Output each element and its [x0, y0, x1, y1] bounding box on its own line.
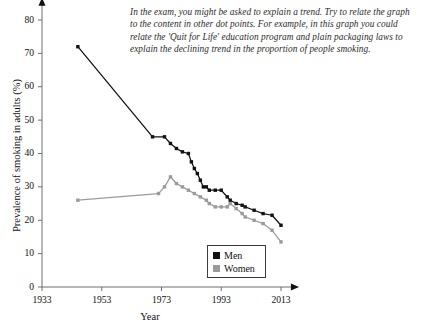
x-tick-label: 1973	[140, 294, 184, 305]
y-tick-label: 40	[10, 147, 34, 158]
x-tick-label: 1953	[80, 294, 124, 305]
y-tick-label: 20	[10, 214, 34, 225]
legend-swatch-women-icon	[213, 265, 220, 272]
y-tick-label: 0	[10, 281, 34, 292]
y-tick-label: 50	[10, 114, 34, 125]
legend-item-women: Women	[213, 262, 265, 275]
y-tick-label: 10	[10, 247, 34, 258]
exam-tip-annotation: In the exam, you might be asked to expla…	[130, 6, 418, 56]
legend-label-women: Women	[224, 263, 255, 274]
legend-swatch-men-icon	[213, 252, 220, 259]
y-tick-label: 30	[10, 180, 34, 191]
smoking-prevalence-chart: In the exam, you might be asked to expla…	[0, 0, 427, 329]
x-tick-label: 2013	[259, 294, 303, 305]
chart-legend: Men Women	[207, 245, 266, 278]
y-tick-label: 70	[10, 47, 34, 58]
legend-label-men: Men	[224, 250, 242, 261]
x-axis-title: Year	[0, 311, 300, 322]
x-tick-label: 1993	[199, 294, 243, 305]
data-series	[76, 45, 283, 244]
y-tick-label: 80	[10, 14, 34, 25]
legend-item-men: Men	[213, 249, 265, 262]
x-tick-label: 1933	[20, 294, 64, 305]
y-tick-label: 60	[10, 80, 34, 91]
